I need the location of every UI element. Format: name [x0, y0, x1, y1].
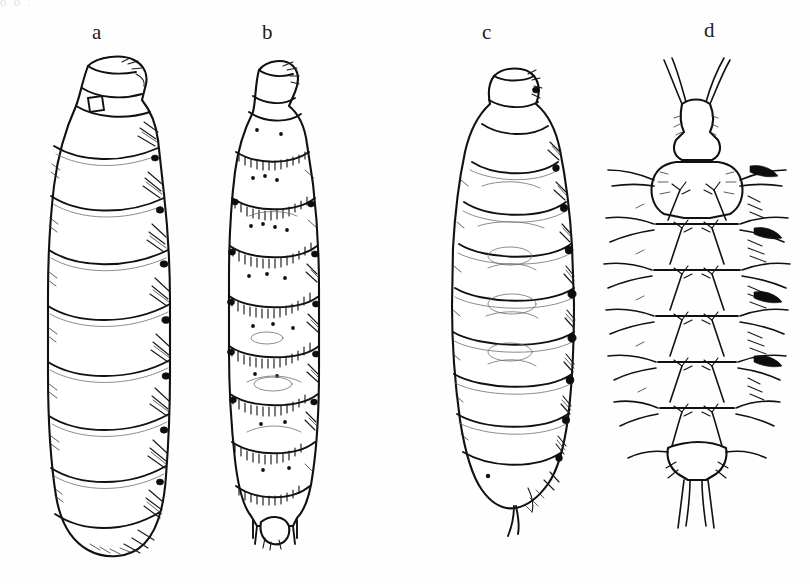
- illustration-plate: o o .: [0, 0, 810, 584]
- larva-b: [205, 52, 345, 552]
- larva-d: [598, 44, 798, 534]
- figure-label-b: b: [262, 22, 273, 43]
- figure-label-a: a: [92, 22, 101, 43]
- larva-c: [432, 56, 592, 541]
- larva-a: [18, 44, 208, 569]
- page-bleed-text: o o .: [0, 0, 810, 8]
- figure-label-c: c: [482, 22, 491, 43]
- figure-label-d: d: [704, 20, 715, 41]
